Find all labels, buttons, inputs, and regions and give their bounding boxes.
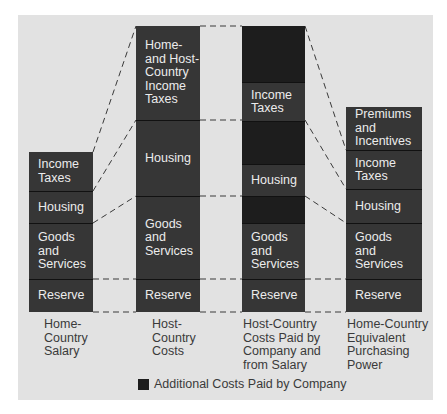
segment-host-country-costs-home--andhost--country-income-taxes: Home-and Host-CountryIncomeTaxes xyxy=(136,26,200,120)
segment-host-country-costs-paid-company-paid xyxy=(242,196,305,223)
segment-label: Reserve xyxy=(251,289,298,303)
segment-label: Reserve xyxy=(145,289,192,303)
segment-host-country-costs-paid-housing: Housing xyxy=(242,164,305,196)
segment-label: Housing xyxy=(355,200,401,214)
label-line: Home-Country xyxy=(347,318,428,332)
segment-home-country-salary-income-taxes: IncomeTaxes xyxy=(29,152,93,191)
label-line: Home- xyxy=(44,318,88,332)
segment-label-line: Goods xyxy=(145,218,193,232)
label-line: Host-Country xyxy=(243,318,321,332)
legend-swatch-company-paid xyxy=(138,379,149,390)
segment-label-line: Incentives xyxy=(355,135,411,149)
label-line: Costs xyxy=(152,345,196,359)
segment-host-country-costs-paid-goods-and-services: GoodsandServices xyxy=(242,223,305,279)
segment-label-line: Goods xyxy=(355,231,403,245)
label-line: from Salary xyxy=(243,359,321,373)
segment-home-country-salary-goods-and-services: GoodsandServices xyxy=(29,223,93,279)
segment-host-country-costs-housing: Housing xyxy=(136,120,200,196)
segment-label: GoodsandServices xyxy=(355,231,403,272)
segment-home-country-equivalent-goods-and-services: GoodsandServices xyxy=(346,223,422,279)
segment-label-line: Income xyxy=(251,89,292,103)
segment-label-line: Taxes xyxy=(145,93,199,107)
segment-label-line: and xyxy=(145,231,193,245)
segment-label-line: Services xyxy=(38,258,86,272)
segment-label-line: Taxes xyxy=(38,172,79,186)
segment-label: IncomeTaxes xyxy=(38,158,79,185)
label-line: Company and xyxy=(243,345,321,359)
segment-label: Home-and Host-CountryIncomeTaxes xyxy=(145,39,199,107)
label-line: Salary xyxy=(44,345,88,359)
segment-label-line: Reserve xyxy=(251,289,298,303)
legend: Additional Costs Paid by Company xyxy=(138,377,346,391)
segment-home-country-salary-housing: Housing xyxy=(29,191,93,223)
segment-host-country-costs-paid-income-taxes: IncomeTaxes xyxy=(242,82,305,121)
segment-home-country-salary-reserve: Reserve xyxy=(29,279,93,312)
segment-label-line: Services xyxy=(355,258,403,272)
label-line: Country xyxy=(44,332,88,346)
segment-label: GoodsandServices xyxy=(38,231,86,272)
segment-label-line: Reserve xyxy=(145,289,192,303)
segment-label-line: Taxes xyxy=(355,170,396,184)
segment-label-line: Reserve xyxy=(38,289,85,303)
column-label-home-country-salary: Home- Country Salary xyxy=(44,318,88,359)
segment-host-country-costs-goods-and-services: GoodsandServices xyxy=(136,196,200,279)
segment-home-country-equivalent-housing: Housing xyxy=(346,189,422,223)
segment-label-line: Housing xyxy=(38,201,84,215)
segment-label: IncomeTaxes xyxy=(251,89,292,116)
segment-label-line: Housing xyxy=(145,152,191,166)
segment-label: Reserve xyxy=(38,289,85,303)
segment-label-line: Reserve xyxy=(355,289,402,303)
label-line: Power xyxy=(347,359,428,373)
segment-label: Reserve xyxy=(355,289,402,303)
segment-label: PremiumsandIncentives xyxy=(355,108,411,149)
segment-host-country-costs-paid-company-paid xyxy=(242,26,305,82)
segment-label-line: and xyxy=(355,122,411,136)
segment-label-line: Taxes xyxy=(251,102,292,116)
label-line: Host- xyxy=(152,318,196,332)
segment-label-line: and xyxy=(355,245,403,259)
segment-host-country-costs-paid-reserve: Reserve xyxy=(242,279,305,312)
segment-label-line: Country xyxy=(145,66,199,80)
segment-label-line: Services xyxy=(145,245,193,259)
label-line: Purchasing xyxy=(347,345,428,359)
segment-label-line: Premiums xyxy=(355,108,411,122)
column-label-host-country-costs: Host- Country Costs xyxy=(152,318,196,359)
column-label-host-country-costs-paid: Host-Country Costs Paid by Company and f… xyxy=(243,318,321,372)
segment-home-country-equivalent-income-taxes: IncomeTaxes xyxy=(346,150,422,189)
segment-home-country-equivalent-premiums-and-incentives: PremiumsandIncentives xyxy=(346,107,422,150)
segment-host-country-costs-paid-company-paid xyxy=(242,121,305,164)
segment-label-line: Housing xyxy=(251,174,297,188)
label-line: Equivalent xyxy=(347,332,428,346)
label-line: Country xyxy=(152,332,196,346)
segment-label-line: Income xyxy=(38,158,79,172)
segment-host-country-costs-reserve: Reserve xyxy=(136,279,200,312)
segment-home-country-equivalent-reserve: Reserve xyxy=(346,279,422,312)
segment-label-line: and xyxy=(38,245,86,259)
segment-label-line: Income xyxy=(145,80,199,94)
label-line: Costs Paid by xyxy=(243,332,321,346)
column-label-home-country-equivalent: Home-Country Equivalent Purchasing Power xyxy=(347,318,428,372)
segment-label: Housing xyxy=(145,152,191,166)
segment-label: GoodsandServices xyxy=(145,218,193,259)
segment-label: Housing xyxy=(251,174,297,188)
legend-label: Additional Costs Paid by Company xyxy=(154,377,346,391)
segment-label-line: Services xyxy=(251,258,299,272)
segment-label-line: Housing xyxy=(355,200,401,214)
segment-label: GoodsandServices xyxy=(251,231,299,272)
segment-label-line: Home- xyxy=(145,39,199,53)
segment-label-line: and Host- xyxy=(145,53,199,67)
segment-label: IncomeTaxes xyxy=(355,157,396,184)
segment-label: Housing xyxy=(38,201,84,215)
segment-label-line: Goods xyxy=(251,231,299,245)
segment-label-line: Income xyxy=(355,157,396,171)
segment-label-line: and xyxy=(251,245,299,259)
segment-label-line: Goods xyxy=(38,231,86,245)
